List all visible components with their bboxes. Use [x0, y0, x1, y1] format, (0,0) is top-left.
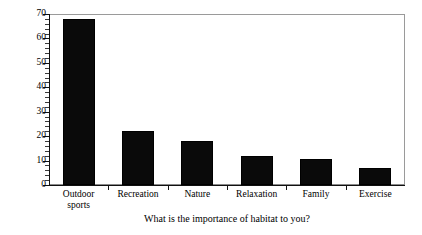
bar: [359, 168, 391, 185]
x-category-label: Outdoor sports: [49, 189, 108, 211]
x-category-label: Nature: [168, 189, 227, 200]
bar: [122, 131, 154, 185]
bar-chart: 010203040506070 Outdoor sportsRecreation…: [0, 0, 422, 235]
x-category-label: Recreation: [108, 189, 167, 200]
bar: [241, 156, 273, 185]
x-category-label: Relaxation: [227, 189, 286, 200]
bar: [300, 159, 332, 185]
bar: [181, 141, 213, 185]
x-axis-title: What is the importance of habitat to you…: [49, 213, 405, 224]
y-axis-title: Percent of respondents: [13, 0, 29, 30]
x-category-label: Family: [286, 189, 345, 200]
x-category-label: Exercise: [346, 189, 405, 200]
bar: [63, 19, 95, 185]
